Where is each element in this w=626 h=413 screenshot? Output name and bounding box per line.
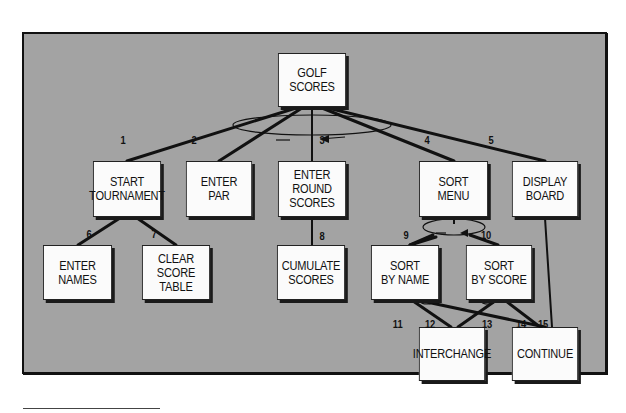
node-start: START TOURNAMENT: [93, 161, 161, 217]
node-par: ENTER PAR: [186, 161, 252, 217]
edge-label-6: 6: [86, 228, 91, 240]
edge-label-4: 4: [424, 134, 429, 146]
edge-label-3: 3: [319, 134, 324, 146]
edge-label-2: 2: [191, 134, 196, 146]
edge-label-13: 13: [482, 318, 492, 330]
node-round: ENTER ROUND SCORES: [278, 161, 346, 217]
node-interchange: INTERCHANGE: [419, 327, 485, 381]
edge-label-11: 11: [393, 318, 403, 330]
edge-label-8: 8: [319, 230, 324, 242]
node-names: ENTER NAMES: [43, 245, 112, 300]
edge-label-1: 1: [120, 134, 125, 146]
edge-label-10: 10: [481, 229, 491, 241]
node-cumulate: CUMULATE SCORES: [277, 245, 345, 300]
edge-label-5: 5: [488, 134, 493, 146]
node-golf: GOLF SCORES: [278, 53, 346, 107]
node-continue: CONTINUE: [512, 327, 578, 381]
edge-label-7: 7: [151, 228, 156, 240]
edge-label-14: 14: [516, 318, 526, 330]
node-display: DISPLAY BOARD: [512, 161, 578, 217]
node-clear: CLEAR SCORE TABLE: [142, 245, 210, 300]
node-sortmenu: SORT MENU: [419, 161, 488, 217]
node-byname: SORT BY NAME: [371, 245, 439, 300]
edge-label-15: 15: [538, 318, 548, 330]
edge-label-12: 12: [425, 318, 435, 330]
footnote-rule: [23, 408, 160, 409]
edge-label-9: 9: [403, 229, 408, 241]
node-byscore: SORT BY SCORE: [466, 245, 532, 300]
